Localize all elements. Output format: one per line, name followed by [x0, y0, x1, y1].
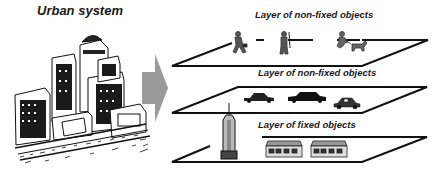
layer-label-fixed: Layer of fixed objects [258, 119, 356, 130]
row-house-icon [266, 141, 302, 157]
diagram-canvas [0, 0, 440, 174]
sedan-car-icon [244, 93, 274, 103]
city-illustration [15, 35, 150, 163]
layer-label-pedestrians: Layer of non-fixed objects [255, 9, 373, 20]
limousine-car-icon [288, 92, 326, 103]
hiker-icon [280, 32, 290, 55]
layer-plane-pedestrians [172, 40, 428, 66]
walking-man-icon [233, 32, 247, 54]
dog-icon [352, 41, 367, 51]
row-house-icon [311, 141, 347, 157]
skyscraper-icon [221, 103, 237, 159]
urban-system-title: Urban system [37, 3, 123, 18]
hatchback-car-icon [334, 98, 360, 109]
layer-label-vehicles: Layer of non-fixed objects [258, 67, 376, 78]
